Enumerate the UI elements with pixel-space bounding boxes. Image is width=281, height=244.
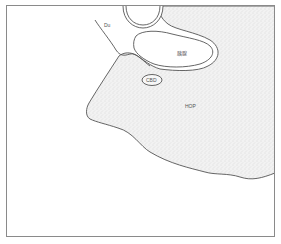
label-duodenum: Du (104, 22, 110, 28)
label-cbd: CBD (146, 77, 157, 83)
label-pancreas: 胰腺 (177, 49, 187, 56)
anatomy-diagram (0, 0, 281, 244)
hop-mass-region (87, 6, 276, 179)
label-hop: HOP (185, 103, 196, 109)
